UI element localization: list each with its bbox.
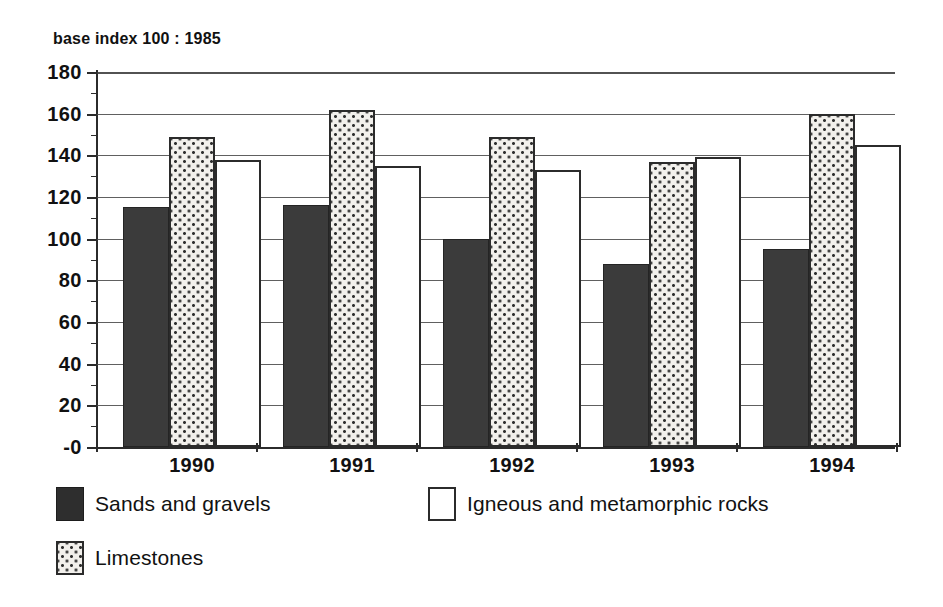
- bar-1992-igneous-and-metamorphic-rocks: [535, 170, 581, 447]
- bar-1990-limestones: [169, 137, 215, 447]
- bar-1991-sands-and-gravels: [283, 205, 329, 447]
- bar-1990-sands-and-gravels: [123, 207, 169, 447]
- y-tick-label-120: 120: [47, 186, 82, 209]
- y-tick-label-40: 40: [59, 352, 82, 375]
- bar-group-1993: [576, 72, 736, 447]
- x-axis-line: [88, 447, 895, 449]
- legend-swatch-sands-and-gravels: [56, 487, 84, 521]
- x-tick-label-1990: 1990: [169, 454, 215, 477]
- y-tick-label-100: 100: [47, 227, 82, 250]
- bar-1994-sands-and-gravels: [763, 249, 809, 447]
- x-tick-1990: [256, 443, 258, 452]
- bar-chart: base index 100 : 1985 180160140120100806…: [0, 0, 943, 607]
- bar-1994-limestones: [809, 114, 855, 447]
- legend-swatch-limestones: [56, 541, 84, 575]
- x-tick-label-1994: 1994: [809, 454, 855, 477]
- legend-label-limestones: Limestones: [95, 546, 203, 570]
- x-tick-label-1991: 1991: [329, 454, 375, 477]
- y-tick-label-160: 160: [47, 102, 82, 125]
- y-tick-label-80: 80: [59, 269, 82, 292]
- legend-label-igneous-and-metamorphic-rocks: Igneous and metamorphic rocks: [467, 492, 769, 516]
- legend-swatch-igneous-and-metamorphic-rocks: [428, 487, 456, 521]
- bar-1992-limestones: [489, 137, 535, 447]
- bar-1990-igneous-and-metamorphic-rocks: [215, 160, 261, 448]
- legend-label-sands-and-gravels: Sands and gravels: [95, 492, 271, 516]
- legend-item-igneous-and-metamorphic-rocks: Igneous and metamorphic rocks: [428, 487, 769, 521]
- y-tick-label-180: 180: [47, 61, 82, 84]
- bar-group-1990: [96, 72, 256, 447]
- chart-subtitle: base index 100 : 1985: [53, 30, 221, 48]
- y-tick-label-140: 140: [47, 144, 82, 167]
- bar-1994-igneous-and-metamorphic-rocks: [855, 145, 901, 447]
- legend-item-limestones: Limestones: [56, 541, 203, 575]
- x-tick-label-1992: 1992: [489, 454, 535, 477]
- y-tick-label-0: -0: [63, 436, 82, 459]
- bar-1993-sands-and-gravels: [603, 264, 649, 447]
- y-tick-label-60: 60: [59, 311, 82, 334]
- x-tick-1993: [736, 443, 738, 452]
- bar-group-1994: [736, 72, 896, 447]
- bar-1993-igneous-and-metamorphic-rocks: [695, 157, 741, 447]
- x-tick-1994: [896, 443, 898, 452]
- bar-1991-limestones: [329, 110, 375, 448]
- bar-group-1992: [416, 72, 576, 447]
- bar-group-1991: [256, 72, 416, 447]
- plot-area: 18016014012010080604020-0 19901991199219…: [96, 72, 895, 447]
- x-tick-origin: [96, 443, 98, 452]
- x-tick-label-1993: 1993: [649, 454, 695, 477]
- x-tick-1991: [416, 443, 418, 452]
- bar-1991-igneous-and-metamorphic-rocks: [375, 166, 421, 447]
- y-tick-label-20: 20: [59, 394, 82, 417]
- bar-1992-sands-and-gravels: [443, 239, 489, 447]
- x-tick-1992: [576, 443, 578, 452]
- bar-1993-limestones: [649, 162, 695, 447]
- legend-item-sands-and-gravels: Sands and gravels: [56, 487, 271, 521]
